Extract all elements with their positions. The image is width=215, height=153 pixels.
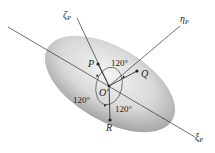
origin-label: O' — [99, 87, 109, 98]
angle-label-top: 120° — [111, 58, 129, 68]
point-p-dot — [96, 62, 99, 65]
angle-label-left: 120° — [73, 95, 91, 105]
angle-label-bottom: 120° — [115, 104, 133, 114]
point-r-label: R — [105, 122, 112, 133]
zeta-axis-label: ζP — [63, 9, 71, 21]
point-q-dot — [135, 69, 138, 72]
xi-axis-label: ξP — [195, 131, 203, 143]
point-p-label: P — [87, 58, 94, 69]
rigid-body-diagram: ζP ηP ξP P Q R O' 120° 120° 120° — [0, 0, 215, 153]
eta-axis-label: ηP — [180, 13, 189, 25]
point-q-label: Q — [141, 68, 149, 79]
